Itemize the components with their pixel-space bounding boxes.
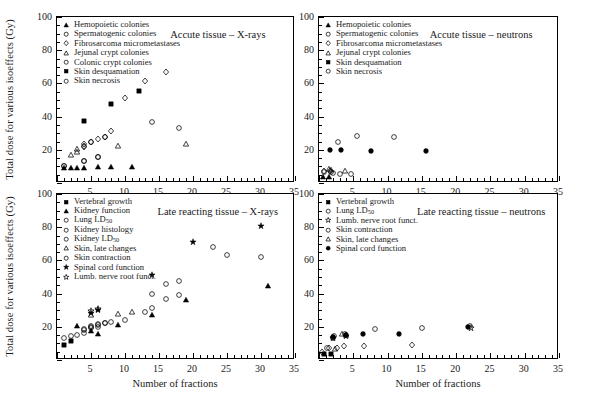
data-point <box>324 344 331 351</box>
panel-late-neutrons: 510152025303520406080100Number of fracti… <box>0 0 594 401</box>
data-point <box>343 331 350 338</box>
x-tick <box>470 355 471 358</box>
data-point <box>418 324 425 331</box>
x-tick <box>394 355 395 358</box>
x-tick <box>477 355 478 358</box>
y-tick <box>319 343 322 344</box>
y-tick <box>319 319 322 320</box>
x-tick <box>504 355 505 358</box>
data-point <box>342 332 349 339</box>
legend-item-label: Spinal cord function <box>334 244 406 253</box>
y-tick <box>319 244 322 245</box>
x-tick <box>538 355 539 358</box>
y-tick-label: 100 <box>288 188 314 199</box>
x-tick <box>490 353 491 358</box>
x-tick <box>346 355 347 358</box>
x-tick <box>388 353 389 358</box>
x-tick <box>442 355 443 358</box>
data-point <box>325 345 332 352</box>
x-tick <box>319 353 320 358</box>
data-point <box>333 344 340 351</box>
x-tick <box>374 355 375 358</box>
data-point <box>468 325 475 332</box>
y-tick <box>319 302 322 303</box>
y-tick <box>319 327 324 328</box>
y-tick <box>319 335 322 336</box>
data-point <box>395 331 402 338</box>
x-tick <box>408 355 409 358</box>
y-tick <box>319 352 322 353</box>
x-tick <box>401 355 402 358</box>
data-point <box>408 342 415 349</box>
x-tick-label: 15 <box>416 363 426 374</box>
x-tick-label: 35 <box>553 363 563 374</box>
data-point <box>359 331 366 338</box>
x-tick <box>532 355 533 358</box>
circle-open-icon <box>323 227 334 233</box>
figure-root: Total dose for various isoeffects (Gy) T… <box>0 0 594 401</box>
y-tick <box>319 277 322 278</box>
square-filled-icon <box>323 199 334 205</box>
y-tick <box>319 294 324 295</box>
x-tick <box>518 355 519 358</box>
x-tick-label: 5 <box>350 363 355 374</box>
y-tick <box>319 202 322 203</box>
y-tick-label: 80 <box>288 221 314 232</box>
data-point <box>339 331 346 338</box>
triangle-open-icon <box>323 236 334 242</box>
data-point <box>466 322 473 329</box>
y-tick-label: 60 <box>288 254 314 265</box>
data-point <box>328 350 335 357</box>
data-point <box>330 335 337 342</box>
x-tick <box>415 355 416 358</box>
legend-late-neutrons: Vertebral growthLung LD50Lumb. nerve roo… <box>323 197 418 253</box>
x-tick <box>484 355 485 358</box>
y-tick <box>319 269 322 270</box>
data-point <box>329 334 336 341</box>
x-tick <box>353 353 354 358</box>
data-point <box>341 331 348 338</box>
x-tick <box>497 355 498 358</box>
y-tick <box>319 194 324 195</box>
data-point <box>342 332 349 339</box>
y-tick <box>319 236 322 237</box>
y-tick <box>319 219 322 220</box>
y-tick <box>319 252 322 253</box>
y-tick-label: 40 <box>288 287 314 298</box>
y-tick <box>319 285 322 286</box>
data-point <box>330 333 337 340</box>
x-tick <box>545 355 546 358</box>
x-tick <box>552 355 553 358</box>
y-tick <box>319 310 322 311</box>
circle-filled-icon <box>323 245 334 251</box>
legend-item: Spinal cord function <box>323 244 418 253</box>
data-point <box>330 332 337 339</box>
panel-title-late-neutrons: Late reacting tissue – neutrons <box>417 206 545 217</box>
x-tick <box>511 355 512 358</box>
data-point <box>372 326 379 333</box>
x-tick <box>449 355 450 358</box>
y-tick-label: 20 <box>288 320 314 331</box>
x-tick <box>429 355 430 358</box>
circle-open-icon <box>323 208 334 214</box>
x-tick <box>333 355 334 358</box>
x-tick-label: 30 <box>519 363 529 374</box>
x-tick <box>456 353 457 358</box>
y-tick <box>319 360 324 361</box>
x-tick <box>326 355 327 358</box>
x-tick <box>525 353 526 358</box>
x-tick <box>367 355 368 358</box>
x-tick <box>381 355 382 358</box>
y-tick <box>319 211 322 212</box>
x-tick <box>340 355 341 358</box>
x-tick <box>360 355 361 358</box>
x-tick <box>436 355 437 358</box>
x-tick-label: 10 <box>382 363 392 374</box>
data-point <box>360 342 367 349</box>
star-open-icon <box>323 217 334 223</box>
data-point <box>340 342 347 349</box>
x-axis-title-late-neutrons: Number of fractions <box>395 378 480 389</box>
x-tick-label: 25 <box>484 363 494 374</box>
x-tick <box>422 353 423 358</box>
x-tick <box>463 355 464 358</box>
